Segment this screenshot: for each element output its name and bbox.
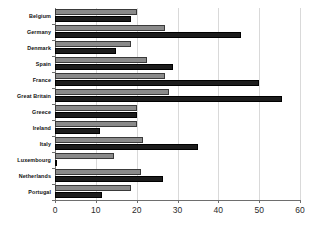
category-label: Ireland [0,125,51,131]
x-tick-label: 60 [285,205,315,215]
bar [55,121,137,127]
x-tick [300,200,301,203]
x-tick-label: 30 [163,205,193,215]
plot-area [55,8,300,200]
gridline-60 [300,8,301,200]
bar-group [55,168,300,184]
x-tick [55,200,56,203]
x-tick-label: 50 [244,205,274,215]
bar [55,16,131,22]
bar [55,169,141,175]
bar-group [55,120,300,136]
x-tick-label: 0 [40,205,70,215]
bar [55,9,137,15]
bar-group [55,40,300,56]
bar-group [55,184,300,200]
category-axis-labels: BelgiumGermanyDenmarkSpainFranceGreat Br… [0,8,51,200]
category-tick [52,24,55,25]
bar [55,153,114,159]
bar [55,73,165,79]
bar-group [55,136,300,152]
bar [55,192,102,198]
bar-group [55,8,300,24]
category-label: Spain [0,61,51,67]
bar-group [55,152,300,168]
x-tick [178,200,179,203]
bar [55,32,241,38]
category-tick [52,120,55,121]
x-tick [218,200,219,203]
bar [55,128,100,134]
category-label: Belgium [0,13,51,19]
bar [55,112,137,118]
category-tick [52,136,55,137]
bar [55,176,163,182]
category-tick [52,184,55,185]
x-tick [137,200,138,203]
bar-group [55,56,300,72]
bar [55,57,147,63]
bar [55,144,198,150]
bar [55,137,143,143]
x-tick [259,200,260,203]
category-tick [52,40,55,41]
bar [55,89,169,95]
category-label: Luxembourg [0,157,51,163]
bar [55,25,165,31]
bar [55,80,259,86]
x-tick-label: 10 [81,205,111,215]
bar [55,41,131,47]
category-label: Italy [0,141,51,147]
bar-chart: BelgiumGermanyDenmarkSpainFranceGreat Br… [0,0,316,231]
bar-group [55,24,300,40]
category-label: Netherlands [0,173,51,179]
category-tick [52,56,55,57]
category-tick [52,72,55,73]
category-label: Great Britain [0,93,51,99]
bar [55,105,137,111]
bar [55,96,282,102]
category-label: Denmark [0,45,51,51]
bar [55,64,173,70]
x-tick-label: 20 [122,205,152,215]
category-tick [52,104,55,105]
category-label: France [0,77,51,83]
bar-group [55,72,300,88]
category-label: Portugal [0,189,51,195]
bar-group [55,104,300,120]
bar [55,48,116,54]
bar [55,160,57,166]
category-tick [52,88,55,89]
bar-group [55,88,300,104]
category-tick [52,168,55,169]
category-label: Greece [0,109,51,115]
category-label: Germany [0,29,51,35]
bar [55,185,131,191]
x-tick-label: 40 [203,205,233,215]
x-tick [96,200,97,203]
category-tick [52,152,55,153]
